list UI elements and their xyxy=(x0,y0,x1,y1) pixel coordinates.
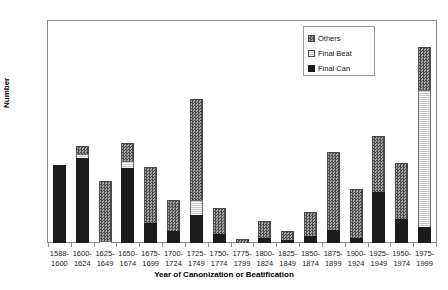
bar-segment-others[interactable] xyxy=(327,152,340,229)
bar-segment-can[interactable] xyxy=(53,165,66,243)
x-axis-tick xyxy=(368,243,369,247)
bar-segment-others[interactable] xyxy=(213,208,226,235)
x-axis-tick xyxy=(436,243,437,247)
bar-group[interactable] xyxy=(190,99,203,243)
bar-group[interactable] xyxy=(99,181,112,243)
bar-segment-can[interactable] xyxy=(418,227,431,243)
bar-segment-others[interactable] xyxy=(281,231,294,241)
bar-group[interactable] xyxy=(304,212,317,243)
x-axis-ticks xyxy=(48,243,436,247)
bar-segment-others[interactable] xyxy=(418,47,431,91)
x-axis-tick xyxy=(139,243,140,247)
x-axis-tick xyxy=(253,243,254,247)
x-axis-tick xyxy=(162,243,163,247)
bar-segment-can[interactable] xyxy=(190,215,203,243)
bar-segment-can[interactable] xyxy=(304,236,317,243)
legend-swatch-final-can-icon xyxy=(308,65,315,72)
bar-group[interactable] xyxy=(350,189,363,243)
bar-group[interactable] xyxy=(53,165,66,243)
x-axis-tick xyxy=(231,243,232,247)
chart-canvas: Number 050100150200250 1588-16001600-162… xyxy=(0,0,448,290)
bar-segment-others[interactable] xyxy=(76,146,89,154)
bar-group[interactable] xyxy=(281,231,294,243)
x-axis-tick xyxy=(322,243,323,247)
bar-segment-can[interactable] xyxy=(121,168,134,243)
bar-segment-can[interactable] xyxy=(76,158,89,243)
bar-segment-can[interactable] xyxy=(372,192,385,243)
bar-segment-others[interactable] xyxy=(395,163,408,219)
bar-segment-others[interactable] xyxy=(258,221,271,238)
legend-item-final-can[interactable]: Final Can xyxy=(308,61,374,76)
bar-segment-can[interactable] xyxy=(327,230,340,243)
x-axis-tick-label: 1975-1999 xyxy=(408,249,442,268)
x-axis-tick xyxy=(208,243,209,247)
bar-segment-can[interactable] xyxy=(213,234,226,243)
x-axis-tick xyxy=(390,243,391,247)
y-axis: Number 050100150200250 xyxy=(0,0,47,243)
x-axis-tick xyxy=(94,243,95,247)
bar-segment-others[interactable] xyxy=(167,200,180,230)
bar-segment-can[interactable] xyxy=(144,223,157,243)
bar-group[interactable] xyxy=(372,136,385,243)
legend-swatch-others-icon xyxy=(308,35,315,42)
x-axis-tick xyxy=(48,243,49,247)
x-axis-labels: 1588-16001600-16241625-16491650-16741675… xyxy=(0,249,448,271)
bar-group[interactable] xyxy=(144,167,157,243)
legend-swatch-final-beat-icon xyxy=(308,50,315,57)
x-axis-tick xyxy=(299,243,300,247)
legend-label-others: Others xyxy=(318,35,341,43)
bar-group[interactable] xyxy=(395,163,408,243)
bar-group[interactable] xyxy=(258,221,271,243)
x-axis-title: Year of Canonization or Beatification xyxy=(0,270,448,279)
legend: Others Final Beat Final Can xyxy=(303,26,375,76)
x-axis-tick xyxy=(345,243,346,247)
legend-item-final-beat[interactable]: Final Beat xyxy=(308,46,374,61)
y-axis-title: Number xyxy=(2,78,11,108)
legend-item-others[interactable]: Others xyxy=(308,31,374,46)
bar-group[interactable] xyxy=(213,208,226,244)
bar-segment-others[interactable] xyxy=(190,99,203,200)
x-axis-tick xyxy=(413,243,414,247)
bar-segment-others[interactable] xyxy=(99,181,112,241)
x-axis-tick xyxy=(276,243,277,247)
bar-segment-others[interactable] xyxy=(144,167,157,224)
x-axis-tick xyxy=(116,243,117,247)
bar-segment-beat[interactable] xyxy=(418,90,431,227)
bar-segment-can[interactable] xyxy=(167,231,180,243)
x-axis-tick xyxy=(71,243,72,247)
bar-series-container xyxy=(48,21,436,243)
bar-segment-others[interactable] xyxy=(121,143,134,162)
legend-label-final-beat: Final Beat xyxy=(318,50,352,58)
bar-segment-others[interactable] xyxy=(304,212,317,236)
bar-segment-others[interactable] xyxy=(372,136,385,193)
legend-label-final-can: Final Can xyxy=(318,65,350,73)
bar-group[interactable] xyxy=(167,200,180,243)
bar-segment-beat[interactable] xyxy=(190,200,203,214)
bar-segment-can[interactable] xyxy=(395,219,408,243)
bar-group[interactable] xyxy=(327,152,340,243)
bar-group[interactable] xyxy=(121,143,134,243)
bar-group[interactable] xyxy=(418,47,431,243)
bar-segment-others[interactable] xyxy=(350,189,363,238)
bar-group[interactable] xyxy=(76,146,89,243)
x-axis-tick xyxy=(185,243,186,247)
